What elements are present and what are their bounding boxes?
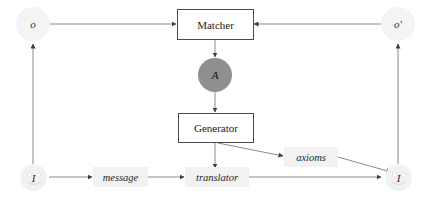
node-observation-right[interactable]: o′	[381, 7, 415, 41]
axioms-text: axioms	[296, 152, 326, 163]
node-human-left[interactable]: I	[20, 164, 47, 191]
node-human-right[interactable]: I	[385, 164, 412, 191]
edge-label-translator[interactable]: translator	[185, 167, 249, 187]
message-text: message	[103, 172, 139, 183]
human-right-label: I	[397, 172, 401, 184]
edge-generator-to-axioms	[218, 143, 283, 156]
node-agent[interactable]: A	[198, 58, 232, 92]
observation-left-label: o	[30, 18, 36, 30]
translator-text: translator	[196, 172, 238, 183]
edge-axioms-to-human-right	[338, 157, 391, 172]
diagram-canvas: o o′ Matcher A Generator I I	[0, 0, 430, 201]
generator-label: Generator	[194, 122, 238, 134]
agent-label: A	[212, 69, 219, 81]
node-matcher[interactable]: Matcher	[177, 9, 254, 40]
matcher-label: Matcher	[197, 19, 234, 31]
node-generator[interactable]: Generator	[178, 113, 254, 143]
edge-label-axioms[interactable]: axioms	[284, 147, 338, 167]
edge-label-message[interactable]: message	[93, 167, 148, 187]
human-left-label: I	[32, 172, 36, 184]
node-observation-left[interactable]: o	[16, 7, 50, 41]
observation-right-label: o′	[394, 18, 402, 30]
